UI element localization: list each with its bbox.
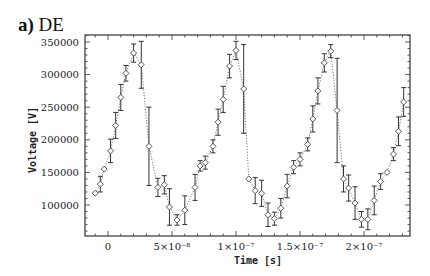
data-point-diamond <box>328 48 334 54</box>
data-point-diamond <box>310 116 316 122</box>
data-point-diamond <box>215 119 221 125</box>
data-point-diamond <box>118 94 124 100</box>
data-point-diamond <box>271 216 277 222</box>
x-tick-label: 1.5×10⁻⁷ <box>277 241 323 252</box>
data-point-diamond <box>358 216 364 222</box>
data-point-diamond <box>233 47 239 53</box>
data-point-diamond <box>341 176 347 182</box>
x-axis-title: Time [s] <box>234 255 282 266</box>
plot-border <box>85 35 410 236</box>
data-point-diamond <box>123 70 129 76</box>
y-tick-labels: 100000150000200000250000300000350000 <box>41 37 79 211</box>
data-point-diamond <box>155 184 161 190</box>
data-point-diamond <box>390 151 396 157</box>
data-point-diamond <box>297 156 303 162</box>
y-tick-label: 200000 <box>41 134 79 145</box>
series-error-bars <box>98 41 406 229</box>
voltage-time-chart: 100000150000200000250000300000350000 05×… <box>0 0 430 276</box>
data-point-diamond <box>192 184 198 190</box>
data-point-diamond <box>113 122 119 128</box>
data-point-diamond <box>97 181 103 187</box>
x-tick-label: 5×10⁻⁸ <box>154 241 191 252</box>
data-point-diamond <box>384 169 390 175</box>
data-point-diamond <box>265 212 271 218</box>
data-point-diamond <box>166 204 172 210</box>
data-point-diamond <box>161 182 167 188</box>
data-point-diamond <box>227 63 233 69</box>
data-point-diamond <box>315 88 321 94</box>
data-point-diamond <box>278 205 284 211</box>
data-point-diamond <box>92 190 98 196</box>
data-point-diamond <box>202 160 208 166</box>
y-tick-label: 300000 <box>41 69 79 80</box>
x-tick-label: 0 <box>105 241 111 252</box>
data-point-diamond <box>108 148 114 154</box>
data-point-diamond <box>259 190 265 196</box>
y-tick-label: 350000 <box>41 37 79 48</box>
data-point-diamond <box>401 99 407 105</box>
data-point-diamond <box>252 188 258 194</box>
data-point-diamond <box>291 164 297 170</box>
data-point-diamond <box>241 86 247 92</box>
data-point-diamond <box>352 200 358 206</box>
x-tick-labels: 05×10⁻⁸1×10⁻⁷1.5×10⁻⁷2×10⁻⁷ <box>105 241 383 252</box>
data-point-diamond <box>220 96 226 102</box>
series-diamond-markers <box>92 47 406 223</box>
x-tick-label: 2×10⁻⁷ <box>346 241 383 252</box>
data-point-diamond <box>246 176 252 182</box>
data-point-diamond <box>197 163 203 169</box>
data-point-diamond <box>131 50 137 56</box>
data-point-diamond <box>321 60 327 66</box>
y-tick-label: 150000 <box>41 167 79 178</box>
data-point-diamond <box>284 183 290 189</box>
data-point-diamond <box>378 179 384 185</box>
y-axis-title: Voltage [V] <box>27 107 38 173</box>
data-point-diamond <box>334 107 340 113</box>
y-tick-label: 100000 <box>41 200 79 211</box>
data-point-diamond <box>101 166 107 172</box>
data-point-diamond <box>146 143 152 149</box>
data-point-diamond <box>305 141 311 147</box>
data-point-diamond <box>210 143 216 149</box>
data-point-diamond <box>371 197 377 203</box>
y-tick-label: 250000 <box>41 102 79 113</box>
plot-frame <box>85 35 410 236</box>
data-point-diamond <box>396 128 402 134</box>
data-point-diamond <box>346 185 352 191</box>
data-point-diamond <box>182 207 188 213</box>
x-tick-label: 1×10⁻⁷ <box>218 241 255 252</box>
data-point-diamond <box>365 216 371 222</box>
data-point-diamond <box>138 62 144 68</box>
axis-ticks <box>85 35 410 236</box>
data-point-diamond <box>174 217 180 223</box>
